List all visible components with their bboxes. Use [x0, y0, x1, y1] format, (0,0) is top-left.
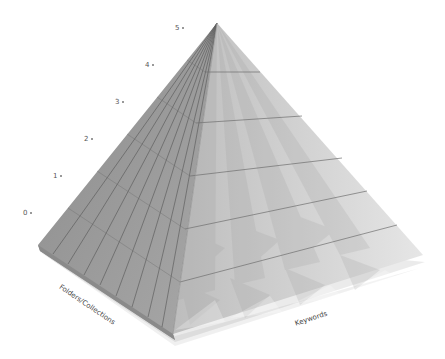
level-label-5: 5: [175, 24, 184, 32]
pyramid-graphic: [0, 0, 445, 359]
level-label-4: 4: [145, 61, 154, 69]
level-label-1: 1: [53, 172, 62, 180]
level-label-3: 3: [115, 98, 124, 106]
level-label-2: 2: [84, 135, 93, 143]
level-label-0: 0: [23, 209, 32, 217]
pyramid-diagram: 0 1 2 3 4 5 Folders/Collections Keywords: [0, 0, 445, 359]
